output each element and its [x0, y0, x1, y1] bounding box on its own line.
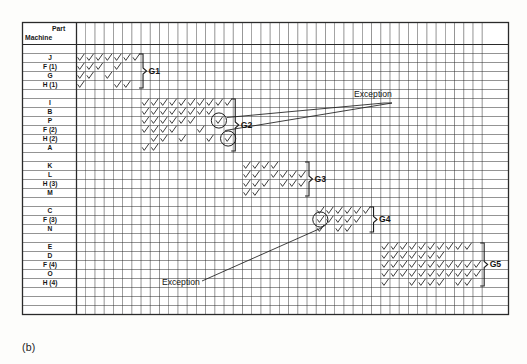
- axis-label-machine: Machine: [25, 34, 52, 41]
- row-label-f2: F (2): [24, 126, 76, 133]
- group-label-g4: G4: [379, 214, 390, 224]
- row-label-f4: F (4): [24, 261, 76, 268]
- figure-canvas: Part Machine JF (1)GH (1)IBPF (2)H (2)AK…: [0, 0, 527, 364]
- row-label-b: B: [24, 108, 76, 115]
- row-label-o: O: [24, 270, 76, 277]
- group-label-g5: G5: [490, 259, 501, 269]
- row-label-l: L: [24, 171, 76, 178]
- row-label-f1: F (1): [24, 63, 76, 70]
- row-label-p: P: [24, 117, 76, 124]
- group-label-g3: G3: [315, 174, 326, 184]
- row-label-i: I: [24, 99, 76, 106]
- row-label-n: N: [24, 225, 76, 232]
- row-label-k: K: [24, 162, 76, 169]
- exception-annotation-top: Exception: [354, 89, 392, 99]
- row-label-f3: F (3): [24, 216, 76, 223]
- row-label-m: M: [24, 189, 76, 196]
- exception-annotation-bottom: Exception: [162, 277, 200, 287]
- row-label-h1: H (1): [24, 81, 76, 88]
- row-label-h2: H (2): [24, 135, 76, 142]
- figure-caption: (b): [22, 341, 35, 353]
- row-label-g: G: [24, 72, 76, 79]
- axis-label-part: Part: [52, 25, 65, 32]
- row-label-e: E: [24, 243, 76, 250]
- row-label-d: D: [24, 252, 76, 259]
- row-label-j: J: [24, 54, 76, 61]
- group-label-g1: G1: [149, 66, 160, 76]
- row-label-c: C: [24, 207, 76, 214]
- row-label-h4: H (4): [24, 279, 76, 286]
- group-label-g2: G2: [241, 120, 252, 130]
- row-label-h3: H (3): [24, 180, 76, 187]
- incidence-matrix-svg: [0, 0, 527, 364]
- row-label-a: A: [24, 144, 76, 151]
